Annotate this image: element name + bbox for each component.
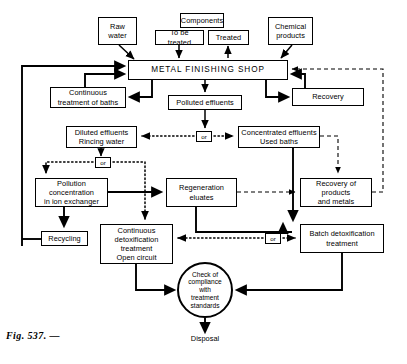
or-junction-2-label: or <box>100 159 106 166</box>
node-continuous-detoxification[interactable]: ContinuousdetoxificationtreatmentOpen ci… <box>100 224 173 264</box>
node-recycling-label: Recycling <box>48 234 81 243</box>
node-recovery-products-metals-label: Recovery ofproductsand metals <box>316 179 356 206</box>
or-junction-1-label: or <box>201 133 207 140</box>
node-pollution-concentration[interactable]: Pollutionconcentrationin ion exchanger <box>35 178 108 207</box>
node-raw-water-label: Rawwater <box>108 22 126 40</box>
node-regeneration-eluates[interactable]: Regenerationeluates <box>166 178 237 207</box>
node-recovery-label: Recovery <box>312 92 344 101</box>
node-batch-detoxification-label: Batch detoxificationtreatment <box>309 229 374 247</box>
node-regeneration-eluates-label: Regenerationeluates <box>179 183 224 201</box>
node-raw-water[interactable]: Rawwater <box>98 17 137 45</box>
node-concentrated-effluents[interactable]: Concentrated effluentsUsed baths <box>238 126 320 148</box>
node-chemical-products-label: Chemicalproducts <box>275 22 306 40</box>
node-disposal: Disposal <box>175 334 235 343</box>
node-continuous-detoxification-label: ContinuousdetoxificationtreatmentOpen ci… <box>115 226 159 262</box>
or-junction-3: or <box>265 233 281 244</box>
node-components[interactable]: Components <box>180 13 224 28</box>
or-junction-3-label: or <box>270 235 276 242</box>
node-disposal-label: Disposal <box>191 334 219 343</box>
node-polluted-effluents-label: Polluted effluents <box>176 98 233 107</box>
node-treated[interactable]: Treated <box>208 30 249 45</box>
node-recycling[interactable]: Recycling <box>41 231 88 246</box>
node-polluted-effluents[interactable]: Polluted effluents <box>168 95 242 110</box>
node-to-be-treated[interactable]: To be treated <box>155 30 204 45</box>
node-to-be-treated-label: To be treated <box>158 28 201 46</box>
node-continuous-treatment-of-baths-label: Continuoustreatment of baths <box>58 88 118 106</box>
or-junction-1: or <box>196 131 212 142</box>
node-check-of-compliance[interactable]: Check ofcompliancewithtreatmentstandards <box>177 262 233 318</box>
node-continuous-treatment-of-baths[interactable]: Continuoustreatment of baths <box>50 87 126 108</box>
node-pollution-concentration-label: Pollutionconcentrationin ion exchanger <box>44 179 99 206</box>
node-batch-detoxification[interactable]: Batch detoxificationtreatment <box>300 224 384 253</box>
node-treated-label: Treated <box>216 33 242 42</box>
node-recovery-products-metals[interactable]: Recovery ofproductsand metals <box>300 178 372 207</box>
node-check-of-compliance-label: Check ofcompliancewithtreatmentstandards <box>188 271 221 310</box>
node-diluted-effluents[interactable]: Diluted effluentsRincing water <box>66 126 137 148</box>
edges-inputs <box>119 45 292 59</box>
node-metal-finishing-shop-label: METAL FINISHING SHOP <box>151 65 265 75</box>
or-junction-2: or <box>95 157 111 168</box>
flowchart-diagram: Rawwater Components To be treated Treate… <box>0 0 407 364</box>
node-metal-finishing-shop[interactable]: METAL FINISHING SHOP <box>128 60 288 80</box>
node-diluted-effluents-label: Diluted effluentsRincing water <box>75 128 129 146</box>
node-chemical-products[interactable]: Chemicalproducts <box>268 17 313 45</box>
node-recovery[interactable]: Recovery <box>292 88 364 106</box>
figure-caption: Fig. 537. — <box>6 330 60 341</box>
node-components-label: Components <box>181 16 223 25</box>
node-concentrated-effluents-label: Concentrated effluentsUsed baths <box>241 128 316 146</box>
